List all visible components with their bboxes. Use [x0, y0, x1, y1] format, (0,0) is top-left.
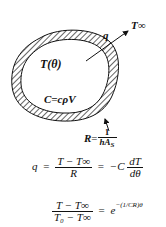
body-temperature-label: T(θ): [40, 58, 62, 70]
body-wall-hatched: [12, 30, 119, 121]
ambient-temperature-label: T∞: [131, 20, 146, 31]
eq2-fraction: T − T∞ T₀ − T∞: [52, 200, 93, 223]
heat-balance-equation: q = T − T∞ R = −C dT dθ: [32, 156, 143, 179]
eq1-equals-1: =: [43, 160, 49, 172]
eq1-fraction: T − T∞ R: [55, 156, 92, 179]
resistance-fraction: 1 h̄AS: [98, 128, 117, 149]
eq1-derivative: dT dθ: [127, 156, 143, 179]
eq1-coefficient: −C: [110, 160, 125, 172]
lumped-capacity-diagram: [0, 0, 166, 227]
heat-flow-label: q: [103, 30, 109, 41]
eq2-equals: =: [99, 204, 105, 216]
eq1-lhs: q: [32, 160, 38, 172]
capacitance-label: C=cρV: [44, 94, 76, 105]
eq2-denominator: T₀ − T∞: [52, 212, 93, 223]
resistance-denominator: h̄AS: [98, 138, 117, 149]
eq2-exponent: −(1/CR)θ: [115, 201, 142, 209]
resistance-label: R= 1 h̄AS: [84, 128, 117, 149]
eq1-denominator: R: [55, 168, 92, 179]
surface-area-subscript: S: [111, 141, 115, 149]
eq1-derivative-denominator: dθ: [127, 168, 143, 179]
temperature-decay-equation: T − T∞ T₀ − T∞ = e−(1/CR)θ: [52, 200, 143, 223]
eq1-equals-2: =: [98, 160, 104, 172]
